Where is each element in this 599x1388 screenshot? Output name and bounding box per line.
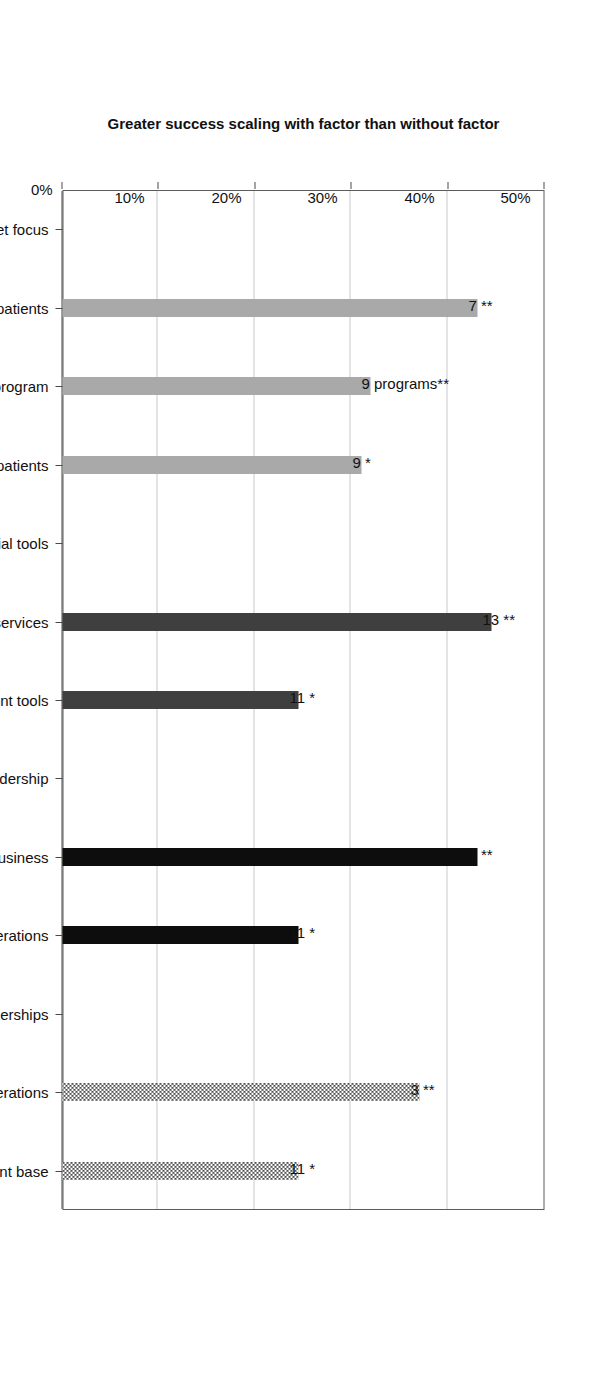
value-axis-tick [254, 182, 255, 189]
chart-canvas: 0%10%20%30%40%50%A. Market focusA1. Emph… [0, 0, 599, 1388]
category-axis-tick [55, 1092, 62, 1093]
category-axis-tick [55, 1171, 62, 1172]
category-label: B2. Alternative payment tools [0, 692, 48, 709]
category-axis-tick [55, 308, 62, 309]
category-label: D1. Franchise operations [0, 1084, 48, 1101]
bar [62, 1083, 419, 1101]
category-label: A3. Emphasize quality experience for pat… [0, 456, 48, 473]
category-label: A. Market focus [0, 221, 48, 238]
value-axis-tick-label: 0% [30, 181, 52, 198]
bar [62, 456, 361, 474]
category-label: A2. Health education to promote program [0, 378, 48, 395]
category-label: B. Financial tools [0, 535, 48, 552]
value-axis-tick-label: 10% [114, 189, 144, 206]
value-axis-tick [447, 182, 448, 189]
value-axis-tick [61, 182, 62, 189]
bar-value-label: 3 ** [410, 1081, 434, 1098]
value-axis-title: Greater success scaling with factor than… [107, 115, 499, 132]
value-axis-tick-label: 20% [211, 189, 241, 206]
category-axis-tick [55, 700, 62, 701]
bar [62, 1162, 298, 1180]
value-axis-tick [543, 182, 544, 189]
category-axis-tick [55, 229, 62, 230]
bar [62, 377, 370, 395]
category-label: C. Administration & leadership [0, 770, 48, 787]
category-axis-tick [55, 622, 62, 623]
value-axis-tick-label: 50% [500, 189, 530, 206]
bar-value-label: 11 * [289, 689, 315, 706]
rotated-chart-wrapper: 0%10%20%30%40%50%A. Market focusA1. Emph… [0, 0, 599, 1388]
bar-value-label: 11 * [289, 1160, 315, 1177]
category-axis-tick [55, 935, 62, 936]
bar-value-label: 7 ** [468, 846, 492, 863]
bar [62, 613, 491, 631]
category-axis-tick [55, 778, 62, 779]
value-axis-tick [157, 182, 158, 189]
value-axis-tick-label: 30% [307, 189, 337, 206]
bar [62, 926, 298, 944]
bar [62, 299, 477, 317]
value-axis-tick-label: 40% [404, 189, 434, 206]
value-axis-tick [350, 182, 351, 189]
bar-value-label: 11 * [289, 924, 315, 941]
category-axis-tick [55, 386, 62, 387]
category-axis-tick [55, 1014, 62, 1015]
category-axis-tick [55, 543, 62, 544]
bar-value-label: 9 programs** [361, 375, 449, 392]
bar [62, 848, 477, 866]
category-label: C1. Leader is a physician with a busines… [0, 848, 48, 865]
category-label: A1. Emphasize branding to attract patien… [0, 299, 48, 316]
category-label: D2. Partners providing access to a clien… [0, 1162, 48, 1179]
category-label: D. Partnerships [0, 1005, 48, 1022]
bar-value-label: 13 ** [482, 611, 515, 628]
category-axis-tick [55, 465, 62, 466]
category-label: B1. Revenue beyond patient services [0, 613, 48, 630]
bar-value-label: 7 ** [468, 297, 492, 314]
category-label: C2. Standardize non-clinical operations [0, 927, 48, 944]
category-axis-tick [55, 857, 62, 858]
bar [62, 691, 298, 709]
bar-value-label: 9 * [352, 454, 370, 471]
